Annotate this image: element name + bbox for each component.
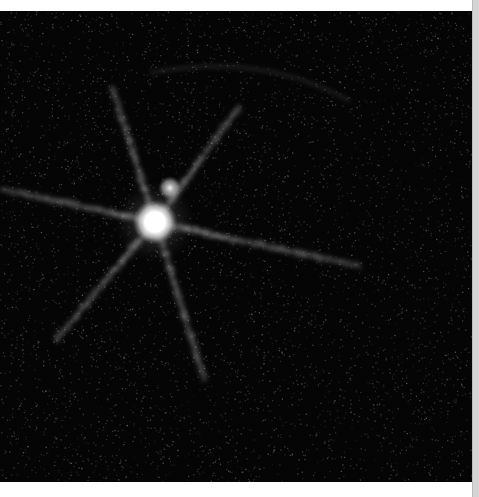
vertical-scrollbar[interactable] <box>472 0 479 497</box>
secondary-source <box>158 176 182 200</box>
astronomical-image <box>0 11 472 482</box>
image-viewer <box>0 11 472 482</box>
primary-source <box>133 200 178 245</box>
